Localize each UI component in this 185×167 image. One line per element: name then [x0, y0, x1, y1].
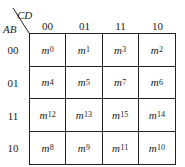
kmap-cell: m13: [66, 99, 102, 132]
row-header: 01: [2, 78, 24, 89]
row-header: 10: [2, 143, 24, 154]
kmap-cell: m1: [66, 34, 102, 67]
kmap-cell: m3: [103, 34, 139, 67]
kmap-cell: m4: [30, 67, 66, 100]
kmap-cell: m2: [139, 34, 175, 67]
kmap-cell: m12: [30, 99, 66, 132]
kmap-cell: m9: [66, 132, 102, 165]
karnaugh-map-grid: m0 m1 m3 m2 m4 m5 m7 m6 m12 m13 m15 m14 …: [29, 33, 176, 165]
row-header: 00: [2, 45, 24, 56]
kmap-cell: m5: [66, 67, 102, 100]
kmap-cell: m0: [30, 34, 66, 67]
row-variables-label: AB: [3, 24, 16, 35]
col-header: 11: [102, 21, 139, 32]
kmap-cell: m8: [30, 132, 66, 165]
col-header: 10: [139, 21, 176, 32]
kmap-cell: m15: [103, 99, 139, 132]
kmap-cell: m6: [139, 67, 175, 100]
kmap-cell: m7: [103, 67, 139, 100]
row-header: 11: [2, 111, 24, 122]
kmap-cell: m10: [139, 132, 175, 165]
col-variables-label: CD: [17, 10, 32, 21]
kmap-cell: m14: [139, 99, 175, 132]
col-header: 00: [29, 21, 66, 32]
col-header: 01: [66, 21, 103, 32]
kmap-cell: m11: [103, 132, 139, 165]
